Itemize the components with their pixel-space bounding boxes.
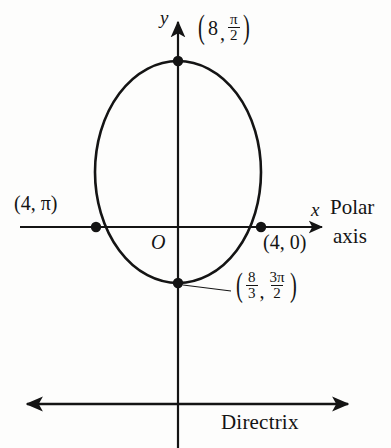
point-bottom-r-fraction: 8 3 [246,270,258,302]
point-bottom-comma: , [260,281,265,302]
point-label-bottom: ( 8 3 , 3π 2 ) [234,270,299,302]
point-top-comma: , [220,23,225,44]
y-axis-label: y [160,8,168,27]
point-label-right: (4, 0) [263,232,306,252]
polar-axis-label-line2: axis [333,226,367,247]
right-paren: ) [290,272,297,299]
point-dot-top [173,56,183,66]
origin-label: O [151,232,165,252]
polar-axis-label-line1: Polar [330,197,374,218]
left-paren: ( [198,14,205,41]
point-dot-bottom [173,278,183,288]
directrix-label: Directrix [221,412,299,433]
point-top-r: 8 [207,18,219,38]
left-paren: ( [236,272,243,299]
polar-conic-figure: y ( 8 , π 2 ) (4, π) O (4, 0) x Polar ax… [0,0,391,448]
x-axis-label: x [311,200,319,219]
point-top-theta-fraction: π 2 [228,12,240,44]
bottom-point-leader-line [183,285,231,291]
point-dot-left [91,222,101,232]
point-label-left: (4, π) [14,193,57,213]
right-paren: ) [243,14,250,41]
point-bottom-theta-fraction: 3π 2 [268,270,287,302]
point-label-top: ( 8 , π 2 ) [196,12,252,44]
